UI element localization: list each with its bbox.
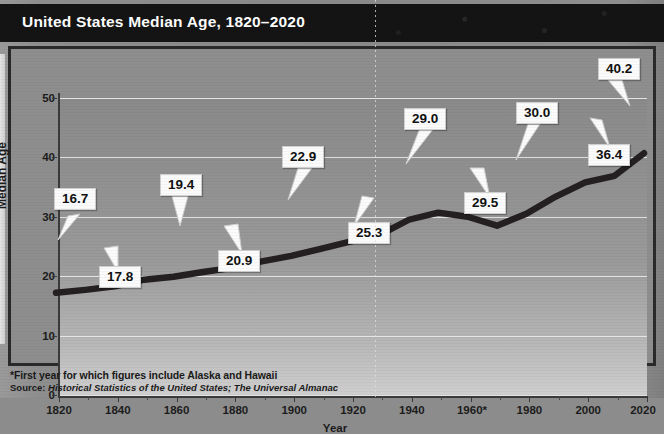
callout-label-29-5: 29.5: [464, 192, 506, 214]
x-tick-minor-1870: [206, 397, 207, 400]
callout-label-19-4: 19.4: [160, 174, 202, 196]
x-tick-mark-1900: [294, 397, 295, 402]
x-tick-mark-1920: [353, 397, 354, 402]
x-tick-minor-1990: [559, 397, 560, 400]
footnote-source: Source: Historical Statistics of the Uni…: [10, 382, 510, 393]
callout-label-25-3: 25.3: [348, 222, 390, 244]
gridline-50: [59, 98, 647, 99]
x-tick-label-1900: 1900: [281, 404, 307, 416]
y-tick-mark-20: [52, 276, 57, 277]
footnotes: *First year for which figures include Al…: [10, 369, 510, 393]
x-tick-label-1840: 1840: [105, 404, 131, 416]
x-tick-label-1860: 1860: [164, 404, 190, 416]
x-tick-mark-1840: [118, 397, 119, 402]
footnote-asterisk: *First year for which figures include Al…: [10, 369, 510, 381]
footnote-source-title: Historical Statistics of the United Stat…: [48, 382, 338, 393]
x-tick-mark-1880: [235, 397, 236, 402]
x-tick-label-2000: 2000: [575, 404, 601, 416]
footnote-source-prefix: Source:: [10, 382, 48, 393]
x-tick-minor-1950: [441, 397, 442, 400]
x-tick-minor-1830: [88, 397, 89, 400]
x-axis-title: Year: [11, 422, 659, 434]
x-tick-minor-1970: [500, 397, 501, 400]
chart-title-bar: United States Median Age, 1820–2020: [0, 4, 664, 42]
x-tick-minor-1910: [324, 397, 325, 400]
y-tick-mark-0: [52, 395, 57, 396]
x-tick-label-1880: 1880: [223, 404, 249, 416]
x-tick-mark-1960: [471, 397, 472, 402]
x-tick-mark-2000: [588, 397, 589, 402]
x-tick-mark-2020: [647, 397, 648, 402]
x-tick-mark-1820: [59, 397, 60, 402]
callout-label-16-7: 16.7: [54, 188, 96, 210]
x-tick-label-1960: 1960*: [457, 404, 487, 416]
x-tick-label-1920: 1920: [340, 404, 366, 416]
callout-label-30-0: 30.0: [516, 102, 558, 124]
callout-label-22-9: 22.9: [282, 146, 324, 168]
x-tick-minor-2010: [618, 397, 619, 400]
x-tick-label-2020: 2020: [630, 404, 656, 416]
x-tick-minor-1890: [265, 397, 266, 400]
callout-label-40-2: 40.2: [598, 58, 640, 80]
x-tick-label-1820: 1820: [46, 404, 72, 416]
y-tick-mark-40: [52, 157, 57, 158]
y-tick-mark-50: [52, 98, 57, 99]
callout-label-29-0: 29.0: [404, 108, 446, 130]
x-tick-mark-1980: [529, 397, 530, 402]
callout-label-17-8: 17.8: [99, 266, 141, 288]
x-tick-minor-1930: [382, 397, 383, 400]
page-title: United States Median Age, 1820–2020: [22, 13, 305, 31]
x-tick-label-1940: 1940: [399, 404, 425, 416]
x-tick-minor-1850: [147, 397, 148, 400]
x-tick-mark-1860: [177, 397, 178, 402]
y-axis-title: Median Age: [0, 142, 9, 209]
gridline-10: [59, 336, 647, 337]
x-tick-mark-1940: [412, 397, 413, 402]
x-tick-label-1980: 1980: [517, 404, 543, 416]
y-tick-mark-10: [52, 336, 57, 337]
callout-label-20-9: 20.9: [218, 250, 260, 272]
